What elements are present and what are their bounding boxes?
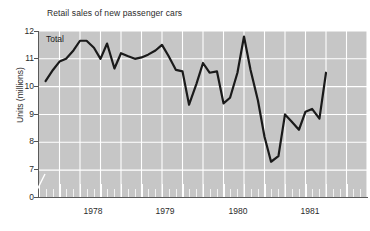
month-tick <box>224 184 225 197</box>
month-tick <box>183 184 184 197</box>
month-tick <box>80 184 81 197</box>
y-tick-label: 10 <box>12 82 34 90</box>
chart-figure: Retail sales of new passenger cars Units… <box>0 0 370 231</box>
month-tick <box>142 184 143 197</box>
month-tick <box>128 189 129 197</box>
y-tick-label: 8 <box>12 137 34 145</box>
month-tick <box>299 189 300 197</box>
month-tick <box>326 184 327 197</box>
month-tick <box>278 189 279 197</box>
month-tick <box>60 184 61 197</box>
y-tick-mark <box>34 58 38 59</box>
month-tick <box>169 189 170 197</box>
y-tick-mark <box>34 197 38 198</box>
data-line-total <box>46 37 326 162</box>
month-tick <box>94 189 95 197</box>
month-tick <box>101 184 102 197</box>
month-tick <box>148 189 149 197</box>
month-tick <box>319 189 320 197</box>
month-tick <box>258 189 259 197</box>
month-tick <box>176 189 177 197</box>
x-tick-label: 1980 <box>218 206 258 216</box>
x-axis-line <box>38 197 368 198</box>
y-tick-label: 0 <box>12 193 34 201</box>
y-tick-mark <box>34 141 38 142</box>
y-tick-mark <box>34 31 38 32</box>
month-tick <box>114 189 115 197</box>
month-tick <box>189 189 190 197</box>
y-tick-mark <box>34 169 38 170</box>
month-tick <box>135 189 136 197</box>
month-tick <box>39 184 40 197</box>
chart-canvas <box>39 31 367 197</box>
y-tick-mark <box>34 114 38 115</box>
month-tick <box>196 189 197 197</box>
plot-inner <box>39 31 367 197</box>
month-tick <box>244 184 245 197</box>
month-tick <box>333 189 334 197</box>
month-tick <box>73 189 74 197</box>
month-tick <box>210 189 211 197</box>
x-axis-month-ticks <box>39 184 367 197</box>
plot-area <box>39 31 367 197</box>
y-tick-label: 11 <box>12 54 34 62</box>
month-tick <box>265 184 266 197</box>
month-tick <box>292 189 293 197</box>
chart-title: Retail sales of new passenger cars <box>47 8 182 18</box>
month-tick <box>87 189 88 197</box>
series-label-total: Total <box>46 34 64 44</box>
month-tick <box>46 189 47 197</box>
month-tick <box>251 189 252 197</box>
x-tick-label: 1978 <box>73 206 113 216</box>
month-tick <box>285 184 286 197</box>
month-tick <box>203 184 204 197</box>
month-tick <box>121 184 122 197</box>
month-tick <box>360 189 361 197</box>
y-tick-mark <box>34 86 38 87</box>
month-tick <box>306 184 307 197</box>
x-tick-label: 1981 <box>290 206 330 216</box>
y-tick-label: 9 <box>12 110 34 118</box>
month-tick <box>347 184 348 197</box>
month-tick <box>230 189 231 197</box>
month-tick <box>271 189 272 197</box>
month-tick <box>353 189 354 197</box>
month-tick <box>107 189 108 197</box>
y-tick-label: 12 <box>12 27 34 35</box>
month-tick <box>237 189 238 197</box>
y-axis-line <box>38 31 39 197</box>
month-tick <box>53 189 54 197</box>
month-tick <box>312 189 313 197</box>
y-axis-tick-labels: 1211109870 <box>10 0 34 231</box>
month-tick <box>367 184 368 197</box>
x-tick-label: 1979 <box>145 206 185 216</box>
month-tick <box>155 189 156 197</box>
month-tick <box>66 189 67 197</box>
y-tick-label: 7 <box>12 165 34 173</box>
month-tick <box>217 189 218 197</box>
month-tick <box>162 184 163 197</box>
month-tick <box>340 189 341 197</box>
